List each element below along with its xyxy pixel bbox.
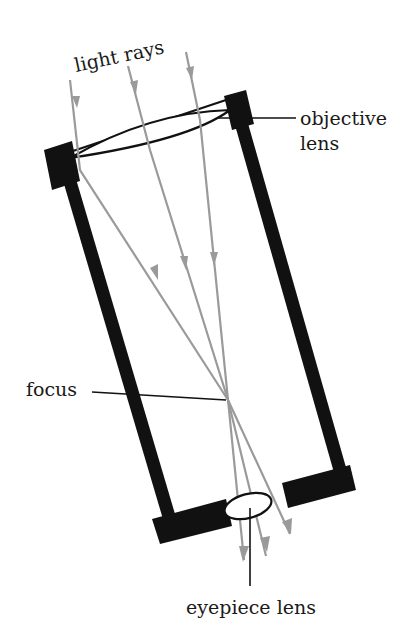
telescope-diagram: light rays objective lens focus eyepiece… xyxy=(0,0,416,633)
objective-mount-left xyxy=(44,141,80,190)
label-objective: objective xyxy=(300,107,387,129)
label-lens: lens xyxy=(300,132,339,154)
arrow-icon xyxy=(150,264,158,280)
objective-lens xyxy=(70,98,232,158)
label-eyepiece-lens: eyepiece lens xyxy=(186,596,316,618)
tube-left-wall xyxy=(66,168,170,520)
arrow-icon xyxy=(210,252,218,266)
telescope-tube xyxy=(44,90,356,544)
eyepiece-mount-right xyxy=(282,465,356,508)
label-focus: focus xyxy=(26,378,77,400)
focus-leader-line xyxy=(92,392,226,400)
eyepiece-lens-shape xyxy=(222,488,275,524)
arrow-icon xyxy=(186,66,194,80)
label-light-rays: light rays xyxy=(72,35,166,75)
tube-right-wall xyxy=(238,112,340,470)
